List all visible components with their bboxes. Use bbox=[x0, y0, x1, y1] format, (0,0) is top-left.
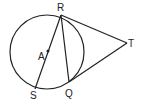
label-Q: Q bbox=[65, 88, 73, 99]
label-T: T bbox=[128, 38, 134, 49]
tangent-QT bbox=[69, 43, 127, 82]
tangent-RT bbox=[61, 15, 127, 43]
label-R: R bbox=[57, 2, 64, 13]
chord-RQ bbox=[61, 15, 69, 82]
label-S: S bbox=[30, 90, 37, 101]
label-A: A bbox=[38, 51, 45, 62]
geometry-diagram: R T A S Q bbox=[0, 0, 142, 103]
center-point-A bbox=[47, 50, 50, 53]
